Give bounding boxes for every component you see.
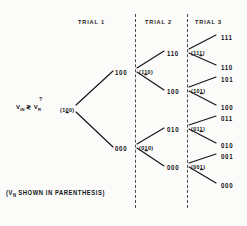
trial-header-3: TRIAL 3 bbox=[195, 19, 222, 25]
trial3-node-2: (101) bbox=[191, 88, 205, 94]
divider-trial1-trial2 bbox=[135, 14, 136, 208]
root-expr-operator: ≷ V bbox=[25, 104, 39, 110]
root-input-expression: VIN ≷ VR bbox=[16, 103, 41, 112]
trial2-output-3: 010 bbox=[167, 126, 179, 133]
caption-prefix: (V bbox=[6, 190, 13, 196]
trial3-node-3: (011) bbox=[191, 126, 205, 132]
figure-caption: (VN SHOWN IN PARENTHESIS) bbox=[6, 190, 105, 199]
trial1-output-lower: 000 bbox=[115, 145, 127, 152]
terminal-011: 011 bbox=[221, 115, 233, 122]
terminal-111: 111 bbox=[221, 34, 233, 41]
caption-suffix: SHOWN IN PARENTHESIS) bbox=[16, 190, 105, 196]
edge-t3b-up bbox=[189, 77, 216, 87]
trial-header-2: TRIAL 2 bbox=[145, 19, 172, 25]
trial2-upper-node: (110) bbox=[139, 69, 153, 75]
terminal-101: 101 bbox=[221, 76, 233, 83]
trial2-lower-node: (010) bbox=[139, 145, 153, 151]
trial2-output-4: 000 bbox=[167, 164, 179, 171]
terminal-010: 010 bbox=[221, 142, 233, 149]
trial-header-1: TRIAL 1 bbox=[78, 19, 105, 25]
edge-root-up bbox=[76, 71, 113, 105]
trial3-node-4: (001) bbox=[191, 164, 205, 170]
terminal-110: 110 bbox=[221, 64, 233, 71]
decision-tree-figure: TRIAL 1TRIAL 2TRIAL 3 (100)(110)(010)(11… bbox=[0, 0, 247, 226]
root-node: (100) bbox=[60, 107, 74, 113]
trial2-output-1: 110 bbox=[167, 50, 179, 57]
root-expr-vr-subscript: R bbox=[38, 107, 41, 112]
divider-trial2-trial3 bbox=[187, 14, 188, 208]
terminal-100: 100 bbox=[221, 104, 233, 111]
edge-t3a-up bbox=[189, 35, 216, 49]
comparison-question-mark: ? bbox=[39, 96, 42, 102]
edge-t3c-up bbox=[189, 116, 216, 125]
edge-t3d-up bbox=[189, 154, 216, 163]
trial3-node-1: (111) bbox=[191, 50, 205, 56]
edge-t2l-up bbox=[137, 128, 164, 144]
trial1-output-upper: 100 bbox=[115, 69, 127, 76]
terminal-001: 001 bbox=[221, 153, 233, 160]
edge-root-down bbox=[76, 112, 113, 147]
terminal-000: 000 bbox=[221, 182, 233, 189]
edge-t2u-up bbox=[137, 51, 164, 68]
trial2-output-2: 100 bbox=[167, 88, 179, 95]
